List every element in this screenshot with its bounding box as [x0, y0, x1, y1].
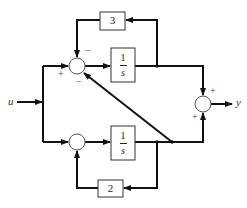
output-summing-junction	[195, 96, 211, 112]
fraction-bar	[120, 65, 127, 66]
top-summing-junction	[69, 58, 85, 74]
integrator-bottom-label: 1 s	[111, 131, 135, 156]
block-diagram	[0, 0, 247, 208]
integrator-top-denominator: s	[111, 68, 135, 78]
integrator-bottom-numerator: 1	[111, 131, 135, 141]
top-integrator-output	[135, 66, 203, 95]
top-summer-sign-top: −	[85, 46, 91, 56]
gain2-to-bottom-summer	[77, 151, 98, 188]
output-summer-sign-bottom: +	[192, 112, 198, 122]
branch-point-top	[155, 64, 159, 68]
fraction-bar	[120, 143, 127, 144]
integrator-top-numerator: 1	[111, 53, 135, 63]
integrator-bottom-denominator: s	[111, 146, 135, 156]
input-label-u: u	[8, 96, 14, 107]
branch-point-diagonal	[170, 140, 174, 144]
branch-point-bottom	[155, 140, 159, 144]
bottom-summing-junction	[69, 134, 85, 150]
top-summer-sign-bottom: −	[76, 77, 82, 87]
top-summer-sign-left: +	[58, 69, 64, 79]
output-summer-sign-top: +	[210, 86, 216, 96]
integrator-top-label: 1 s	[111, 53, 135, 78]
output-label-y: y	[236, 97, 241, 108]
gain-top-value: 3	[100, 15, 125, 26]
gain-bottom-value: 2	[98, 183, 123, 194]
